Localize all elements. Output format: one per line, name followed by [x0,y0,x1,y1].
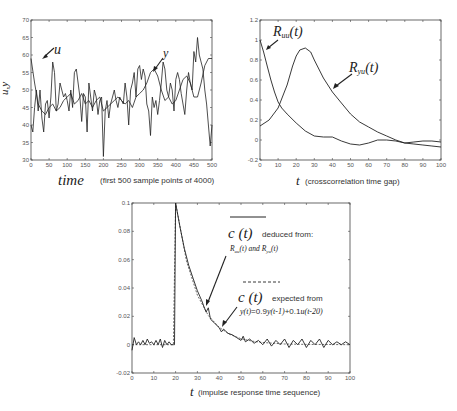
y-tick-label: -0.02 [116,370,130,376]
arrow-expected [225,307,237,323]
x-tick-label: 80 [401,162,408,168]
y-tick-label: 35 [22,140,29,146]
x-tick-label: 70 [383,162,390,168]
x-tick-label: 70 [281,375,288,381]
y-tick-label: 45 [22,105,29,111]
annotation-ruu: Ruu(t) [272,24,303,40]
y-tick-label: 0.02 [118,313,130,319]
y-tick-label: 0.06 [118,257,130,263]
x-tick-label: 450 [189,162,200,168]
y-tick-label: 0 [255,137,259,143]
x-tick-label: 80 [303,375,310,381]
x-tick-label: 500 [207,162,218,168]
axis-ticks: 0501001502002503003504004505003035404550… [22,17,217,168]
annotation-u: u [54,42,61,57]
y-tick-label: 50 [22,87,29,93]
x-axis-label-main: t [190,384,194,399]
arrow-deduced-head-icon [206,299,210,306]
annotation-ryu: Ryu(t) [348,60,379,76]
y-tick-label: 1.2 [250,17,259,23]
y-tick-label: 30 [22,157,29,163]
x-tick-label: 100 [436,162,447,168]
x-tick-label: 300 [135,162,146,168]
y-tick-label: -0.2 [248,157,259,163]
y-tick-label: 0 [127,342,131,348]
x-tick-label: 90 [420,162,427,168]
arrow-ryu [336,74,352,86]
legend-dashed-label: expected from [272,294,323,303]
x-tick-label: 30 [311,162,318,168]
annotation-y: y [162,46,169,60]
y-axis-label: u,y [0,82,10,95]
x-axis-label-main: t [296,173,300,188]
y-tick-label: 0.8 [250,57,259,63]
x-axis-label-note: (crosscorrelation time gap) [305,177,400,186]
x-tick-label: 60 [259,375,266,381]
x-tick-label: 40 [216,375,223,381]
y-tick-label: 0.04 [118,285,130,291]
y-tick-label: 0.08 [118,228,130,234]
figure-canvas: 0501001502002503003504004505003035404550… [0,0,457,411]
y-tick-label: 40 [22,122,29,128]
y-tick-label: 70 [22,17,29,23]
x-tick-label: 200 [98,162,109,168]
x-tick-label: 100 [62,162,73,168]
series-y-line [31,59,212,115]
arrow-deduced [208,256,226,302]
legend-solid-symbol: c (t) [228,225,253,242]
plot-frame [31,20,212,160]
legend-dashed-symbol: c (t) [238,289,263,306]
x-tick-label: 350 [153,162,164,168]
series-ruu-line [260,40,441,145]
legend-solid-sublabel: Ruu(t) and Ryu(t) [229,244,279,254]
x-tick-label: 40 [329,162,336,168]
x-tick-label: 90 [325,375,332,381]
x-axis-label-main: time [58,172,84,188]
chart-correlation: 0102030405060708090100-0.200.20.40.60.81… [248,17,447,188]
x-tick-label: 400 [171,162,182,168]
y-tick-label: 60 [22,52,29,58]
y-tick-label: 1 [255,37,259,43]
y-tick-label: 0.4 [250,97,259,103]
axis-ticks: 0102030405060708090100-0.200.20.40.60.81… [248,17,447,168]
x-axis-label-note: (first 500 sample points of 4000) [100,176,215,185]
y-tick-label: 0.1 [122,200,131,206]
x-tick-label: 0 [258,162,262,168]
x-tick-label: 0 [130,375,134,381]
plot-frame [260,20,441,160]
x-tick-label: 50 [46,162,53,168]
y-tick-label: 55 [22,70,29,76]
legend-solid-label: deduced from: [262,230,313,239]
x-tick-label: 30 [194,375,201,381]
x-tick-label: 50 [238,375,245,381]
x-tick-label: 20 [172,375,179,381]
x-tick-label: 100 [345,375,356,381]
x-tick-label: 50 [347,162,354,168]
y-tick-label: 0.6 [250,77,259,83]
x-tick-label: 0 [29,162,33,168]
x-tick-label: 150 [80,162,91,168]
chart-input-output: 0501001502002503003504004505003035404550… [0,17,218,188]
y-tick-label: 0.2 [250,117,259,123]
y-tick-label: 65 [22,35,29,41]
x-tick-label: 60 [365,162,372,168]
x-tick-label: 250 [116,162,127,168]
chart-impulse-response: 0102030405060708090100-0.0200.020.040.06… [116,200,355,399]
legend-dashed-equation: y(t)=0.9y(t-1)+0.1u(t-20) [239,307,323,316]
x-axis-label-note: (impulse response time sequence) [198,388,321,397]
x-tick-label: 10 [150,375,157,381]
x-tick-label: 10 [275,162,282,168]
x-tick-label: 20 [293,162,300,168]
